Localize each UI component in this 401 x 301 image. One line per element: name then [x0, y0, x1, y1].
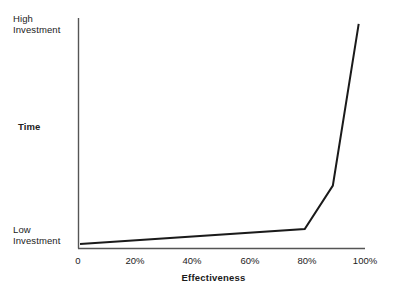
x-tick-label-60: 60% — [230, 255, 270, 266]
x-tick-label-40: 40% — [172, 255, 212, 266]
x-tick-label-100: 100% — [345, 255, 385, 266]
x-tick-label-20: 20% — [115, 255, 155, 266]
x-axis-title: Effectiveness — [182, 272, 246, 283]
x-tick-label-0: 0 — [58, 255, 98, 266]
data-series-line — [80, 24, 359, 244]
x-axis-title-wrap: Effectiveness — [0, 272, 401, 283]
x-tick-label-80: 80% — [287, 255, 327, 266]
chart-container: HighInvestment LowInvestment Time 0 20% … — [0, 0, 401, 301]
